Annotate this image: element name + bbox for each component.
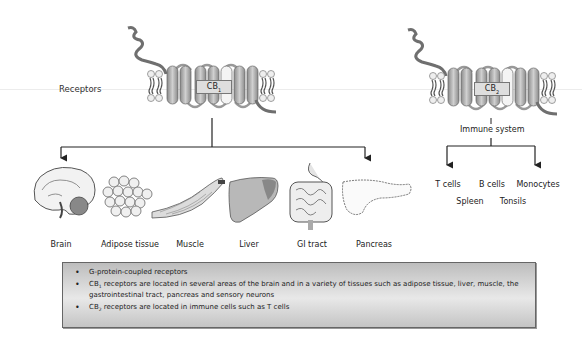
info-list: G-protein-coupled receptors CB1 receptor… (63, 263, 535, 315)
pancreas-icon (343, 180, 412, 215)
tissue-label-brain: Brain (46, 240, 76, 249)
muscle-icon (152, 178, 225, 218)
tissue-label-gi-tract: GI tract (292, 240, 332, 249)
liver-icon (229, 178, 278, 223)
brain-icon (34, 167, 95, 218)
info-box: G-protein-coupled receptors CB1 receptor… (62, 262, 536, 328)
adipose-icon (103, 176, 152, 217)
info-bullet-2: CB1 receptors are located in several are… (89, 280, 535, 300)
immune-label-spleen: Spleen (454, 197, 486, 206)
immune-label-b-cells: B cells (476, 180, 508, 189)
tissue-label-liver: Liver (232, 240, 266, 249)
tissue-label-pancreas: Pancreas (352, 240, 396, 249)
immune-system-label: Immune system (460, 125, 522, 134)
cb1-receptor-icon (128, 28, 276, 113)
immune-label-tonsils: Tonsils (496, 197, 530, 206)
info-bullet-3: CB2 receptors are located in immune cell… (89, 303, 535, 314)
immune-label-t-cells: T cells (432, 180, 464, 189)
gi-tract-icon (290, 163, 332, 230)
cb2-receptor-icon (408, 30, 557, 115)
cb1-label: CB1 (196, 80, 232, 94)
tissue-label-adipose: Adipose tissue (95, 240, 165, 249)
tissue-label-muscle: Muscle (170, 240, 210, 249)
receptors-label: Receptors (59, 84, 102, 94)
info-bullet-1: G-protein-coupled receptors (89, 268, 535, 277)
cb2-label: CB2 (474, 82, 510, 96)
immune-label-monocytes: Monocytes (513, 180, 563, 189)
